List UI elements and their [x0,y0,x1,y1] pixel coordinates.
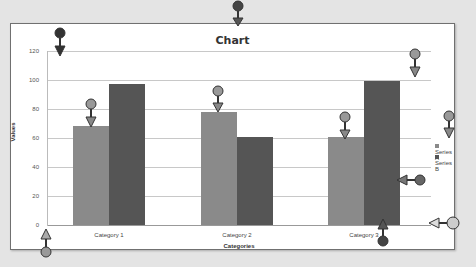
pin-arrow-down-icon [86,99,96,127]
pin-arrow-down-icon [444,111,454,138]
annotation-markers [0,0,476,267]
pin-arrow-down-icon [340,112,350,139]
pin-arrow-left-icon [397,175,425,185]
pin-arrow-left-icon [429,217,459,229]
pin-arrow-down-icon [233,1,243,26]
pin-arrow-down-icon [410,49,420,77]
pin-arrow-up-icon [378,219,388,246]
pin-arrow-down-icon [55,28,65,56]
pin-arrow-up-icon [41,229,51,257]
pin-arrow-down-icon [213,86,223,112]
